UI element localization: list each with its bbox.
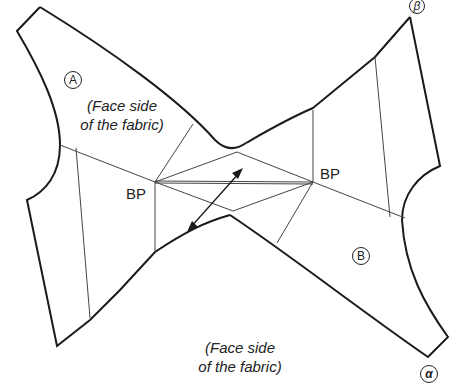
bp-right-label: BP [320, 165, 340, 182]
piece-a-outline [17, 7, 230, 346]
corner-alpha-label: α [420, 364, 438, 383]
bottom-note: (Face side of the fabric) [170, 338, 310, 376]
corner-beta-label: β [409, 0, 425, 14]
piece-a-marker: A [64, 70, 82, 89]
piece-b-top-edge [246, 17, 410, 143]
bp-left-label: BP [126, 185, 146, 202]
grainline-arrow-icon [187, 168, 243, 232]
piece-b-right-edge [230, 17, 448, 357]
piece-a-note: (Face side of the fabric) [62, 96, 182, 134]
pattern-diagram [0, 0, 467, 392]
piece-b-marker: B [352, 246, 370, 265]
